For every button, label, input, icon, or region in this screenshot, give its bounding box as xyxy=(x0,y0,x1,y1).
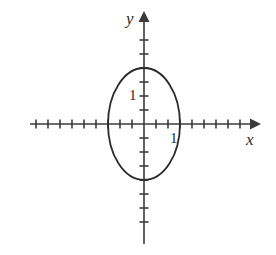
x-axis-label: x xyxy=(245,130,254,149)
graph-figure: y x 1 1 xyxy=(0,0,276,255)
y-axis-arrowhead xyxy=(139,11,150,22)
x-axis-arrowhead xyxy=(250,119,261,130)
y-axis-unit-label: 1 xyxy=(129,87,137,103)
coordinate-plane-plot: y x 1 1 xyxy=(0,0,276,255)
y-axis-label: y xyxy=(124,9,134,28)
x-axis-unit-label: 1 xyxy=(170,130,178,146)
